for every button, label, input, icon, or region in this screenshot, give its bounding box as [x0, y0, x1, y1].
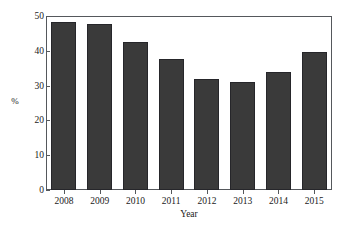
y-tick-label: 40	[0, 46, 44, 57]
x-tick-mark	[135, 190, 136, 194]
y-tick-mark	[46, 190, 50, 191]
x-tick-label: 2015	[294, 195, 334, 207]
x-tick-label: 2011	[151, 195, 191, 207]
y-tick-label: 30	[0, 81, 44, 92]
x-tick-label: 2008	[44, 195, 84, 207]
x-tick-label: 2009	[80, 195, 120, 207]
x-tick-mark	[314, 190, 315, 194]
x-tick-label: 2014	[258, 195, 298, 207]
x-tick-mark	[278, 190, 279, 194]
y-tick-label: 10	[0, 150, 44, 161]
x-tick-label: 2013	[223, 195, 263, 207]
x-tick-mark	[64, 190, 65, 194]
y-tick-label: 20	[0, 115, 44, 126]
bar	[194, 79, 219, 190]
bar	[230, 82, 255, 190]
x-tick-mark	[171, 190, 172, 194]
y-tick-label: 50	[0, 11, 44, 22]
bar	[87, 24, 112, 190]
x-tick-label: 2012	[187, 195, 227, 207]
x-tick-mark	[243, 190, 244, 194]
y-axis-title: %	[7, 96, 23, 106]
bar-chart-figure: % 01020304050 20082009201020112012201320…	[0, 0, 346, 233]
x-tick-mark	[207, 190, 208, 194]
bars-group	[46, 16, 332, 190]
bar	[266, 72, 291, 190]
x-tick-label: 2010	[115, 195, 155, 207]
bar	[123, 42, 148, 190]
bar	[51, 22, 76, 190]
bar	[159, 59, 184, 190]
x-tick-mark	[100, 190, 101, 194]
bar	[302, 52, 327, 190]
x-axis-title: Year	[46, 209, 332, 219]
y-tick-label: 0	[0, 185, 44, 196]
